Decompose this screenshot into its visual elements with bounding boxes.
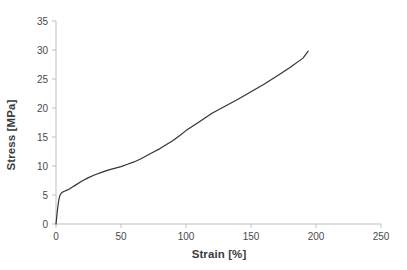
x-tick-label: 150: [243, 231, 260, 242]
plot-area: 05101520253035 050100150200250: [0, 0, 407, 270]
y-tick-label: 25: [37, 74, 49, 85]
x-axis-ticks: 050100150200250: [53, 224, 390, 242]
x-tick-label: 200: [308, 231, 325, 242]
y-axis-ticks: 05101520253035: [37, 16, 56, 230]
y-tick-label: 0: [42, 219, 48, 230]
stress-strain-chart: Stress [MPa] Strain [%] 05101520253035 0…: [0, 0, 407, 270]
x-tick-label: 0: [53, 231, 59, 242]
x-tick-label: 250: [373, 231, 390, 242]
data-series-group: [56, 51, 308, 224]
y-tick-label: 30: [37, 45, 49, 56]
axes-group: [56, 21, 381, 224]
x-tick-label: 100: [178, 231, 195, 242]
y-tick-label: 15: [37, 132, 49, 143]
x-tick-label: 50: [115, 231, 127, 242]
y-tick-label: 10: [37, 161, 49, 172]
y-tick-label: 20: [37, 103, 49, 114]
y-tick-label: 35: [37, 16, 49, 27]
series-line: [56, 51, 308, 224]
y-tick-label: 5: [42, 190, 48, 201]
